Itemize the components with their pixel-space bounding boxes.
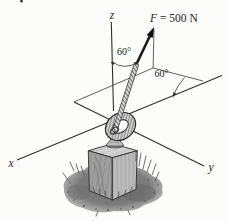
force-label-value: = 500 N [160,12,198,24]
concrete-block [88,144,137,200]
statics-figure: z x y F = 500 N 60° 60° [0,0,228,221]
z-axis-label: z [109,9,115,21]
y-axis-label: y [207,161,214,174]
force-label-symbol: F [149,12,158,24]
angle-plane-label: 60° [155,68,169,79]
x-axis-label: x [7,157,14,169]
angle-z-label: 60° [117,46,131,57]
ground-shadow-left [67,184,91,200]
